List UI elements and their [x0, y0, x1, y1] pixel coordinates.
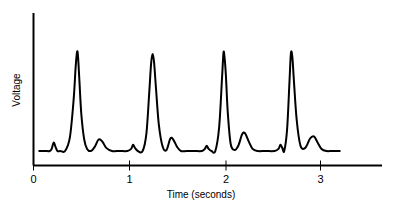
x-axis-title: Time (seconds)	[167, 189, 236, 200]
x-tick-label-2: 2	[223, 173, 229, 185]
ecg-chart-figure: 0 1 2 3 Time (seconds) Voltage	[0, 0, 400, 202]
x-tick-label-1: 1	[126, 173, 132, 185]
x-tick-label-3: 3	[317, 173, 323, 185]
y-axis-title: Voltage	[11, 73, 22, 107]
x-tick-label-0: 0	[30, 173, 36, 185]
chart-canvas: 0 1 2 3 Time (seconds) Voltage	[0, 0, 400, 202]
ecg-waveform-trace	[39, 51, 340, 153]
